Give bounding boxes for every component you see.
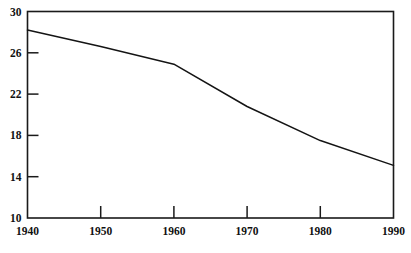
line-chart-figure: 302622181410 194019501960197019801990 — [0, 0, 411, 253]
y-axis-label: 30 — [10, 6, 22, 18]
x-axis-label: 1960 — [162, 225, 185, 237]
x-axis-label: 1950 — [89, 225, 112, 237]
x-axis-label: 1990 — [382, 225, 405, 237]
chart-canvas: 302622181410 194019501960197019801990 — [0, 0, 411, 253]
x-axis-label: 1940 — [16, 225, 39, 237]
x-axis-label: 1970 — [236, 225, 259, 237]
y-axis-label: 26 — [10, 47, 22, 59]
y-axis-label: 14 — [10, 171, 22, 183]
y-axis-label: 18 — [10, 129, 22, 141]
y-axis-label: 22 — [10, 88, 22, 100]
x-axis-label: 1980 — [309, 225, 332, 237]
y-axis-label: 10 — [10, 212, 22, 224]
